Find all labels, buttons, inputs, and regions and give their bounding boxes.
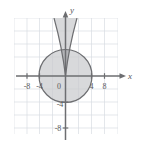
y-tick-label-neg4: -4 <box>57 100 64 109</box>
y-axis-label: y <box>69 5 74 15</box>
x-axis-label: x <box>127 71 132 81</box>
y-axis-arrow <box>63 11 69 18</box>
y-tick-label-neg8: -8 <box>55 124 62 133</box>
graph-figure: -8 -4 0 4 8 -4 -8 x y <box>0 0 141 148</box>
x-axis-arrow <box>120 73 127 79</box>
x-tick-label-neg4: -4 <box>36 82 43 91</box>
x-tick-label-4: 4 <box>90 82 94 91</box>
x-tick-label-8: 8 <box>103 82 107 91</box>
coordinate-plane-plot: -8 -4 0 4 8 -4 -8 x y <box>0 0 141 148</box>
origin-label: 0 <box>57 82 61 91</box>
x-tick-label-neg8: -8 <box>24 82 31 91</box>
